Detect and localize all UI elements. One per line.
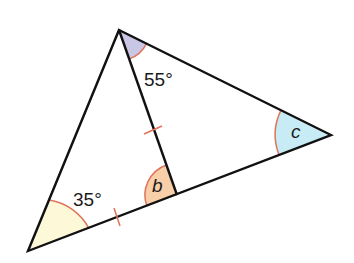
angle-label-55: 55° [144, 69, 173, 90]
angle-label-35: 35° [73, 189, 102, 210]
angle-label-c: c [291, 121, 301, 142]
angle-c-fill [275, 110, 331, 155]
triangle-diagram: 55° c b 35° [0, 0, 354, 263]
angle-label-b: b [152, 175, 163, 196]
